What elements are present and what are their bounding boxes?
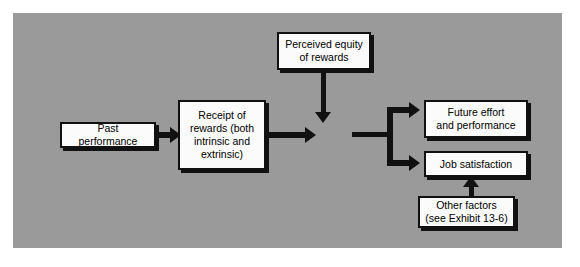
connector-receipt-to-merge [268, 132, 308, 138]
node-receipt-rewards-label: Receipt of rewards (both intrinsic and e… [185, 109, 259, 161]
diagram-canvas: Past performance Receipt of rewards (bot… [0, 0, 580, 267]
node-job-satisfaction: Job satisfaction [424, 151, 528, 177]
arrowhead-right-icon [409, 155, 420, 171]
arrowhead-up-icon [463, 176, 479, 187]
arrowhead-right-icon [305, 127, 316, 143]
node-perceived-equity: Perceived equity of rewards [277, 32, 371, 70]
node-other-factors-label: Other factors (see Exhibit 13-6) [425, 199, 508, 225]
node-other-factors: Other factors (see Exhibit 13-6) [418, 196, 515, 228]
node-perceived-equity-label: Perceived equity of rewards [284, 38, 364, 64]
node-past-performance-label: Past performance [67, 122, 149, 148]
node-future-effort-label: Future effort and performance [431, 106, 521, 132]
node-job-satisfaction-label: Job satisfaction [431, 158, 521, 171]
diagram-panel: Past performance Receipt of rewards (bot… [13, 13, 562, 248]
connector-merge-to-split [352, 132, 392, 137]
connector-split-bar [387, 107, 393, 165]
arrowhead-right-icon [409, 102, 420, 118]
node-past-performance: Past performance [60, 122, 156, 148]
node-receipt-rewards: Receipt of rewards (both intrinsic and e… [178, 100, 266, 170]
node-future-effort: Future effort and performance [424, 100, 528, 138]
arrowhead-down-icon [315, 112, 331, 123]
